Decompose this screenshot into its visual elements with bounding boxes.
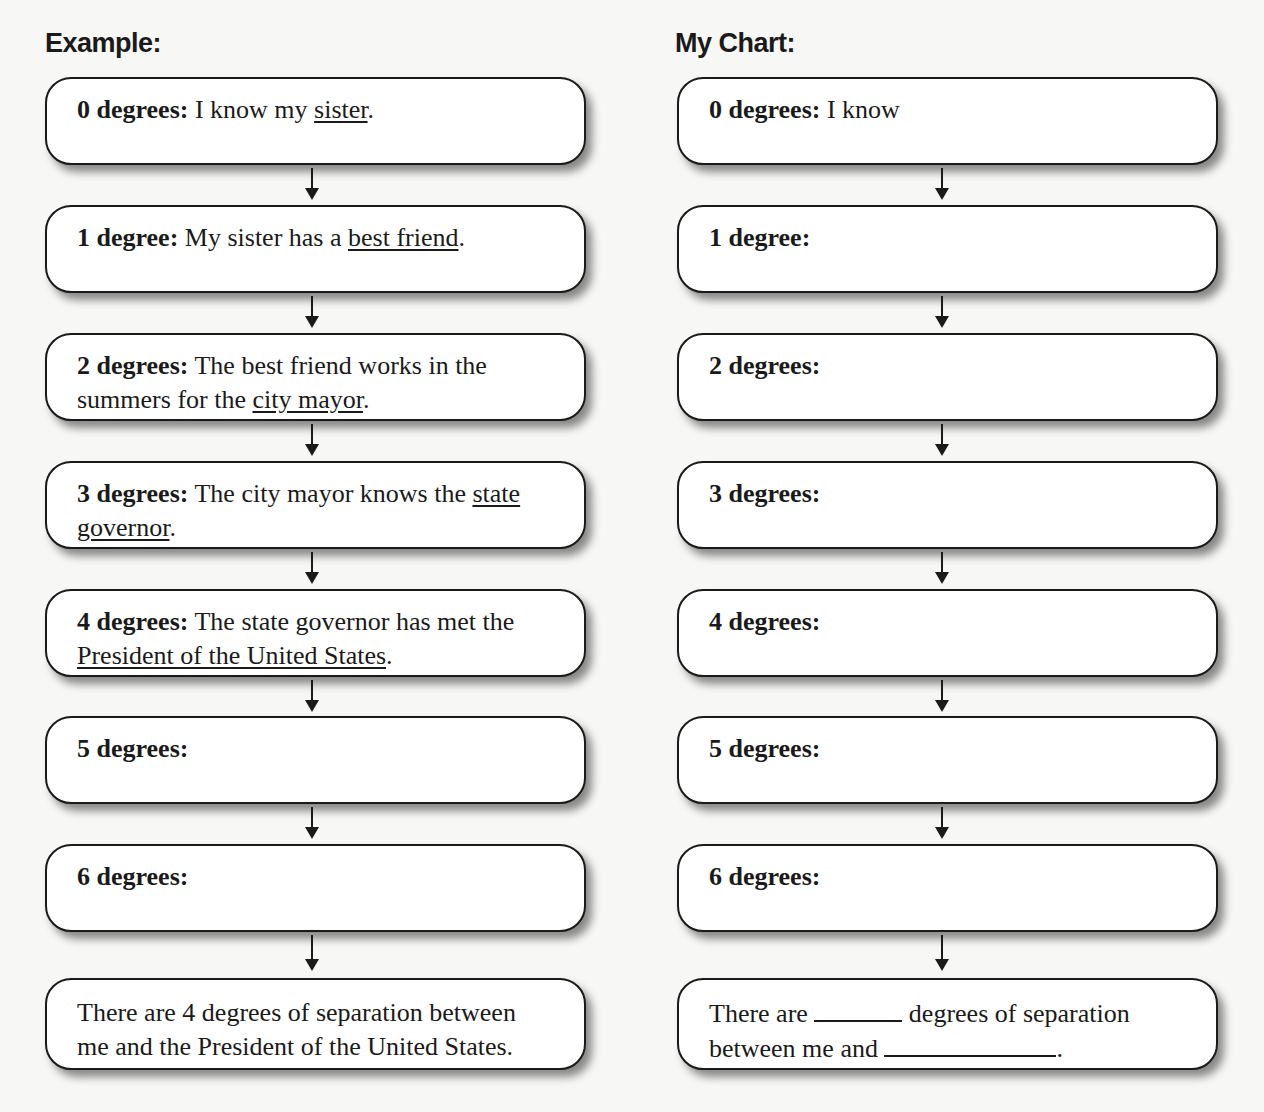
step-text: The state governor has met the — [188, 607, 514, 636]
step-text: The city mayor knows the — [188, 479, 472, 508]
step-underlined: President of the United States — [77, 641, 386, 670]
step-label: 5 degrees: — [77, 734, 188, 763]
arrow-down-icon — [311, 552, 313, 582]
step-punct: . — [363, 385, 370, 414]
conclusion-text: There are — [709, 999, 814, 1028]
step-label: 0 degrees: — [709, 95, 820, 124]
step-label: 1 degree: — [709, 223, 810, 252]
step-label: 0 degrees: — [77, 95, 188, 124]
example-step-2: 2 degrees: The best friend works in the … — [45, 333, 586, 421]
arrow-down-icon — [941, 935, 943, 969]
step-label: 3 degrees: — [709, 479, 820, 508]
arrow-down-icon — [311, 935, 313, 969]
step-punct: . — [368, 95, 375, 124]
step-punct: . — [458, 223, 465, 252]
step-label: 3 degrees: — [77, 479, 188, 508]
step-text: I know my — [188, 95, 314, 124]
step-label: 6 degrees: — [77, 862, 188, 891]
my-step-3[interactable]: 3 degrees: — [677, 461, 1218, 549]
step-text: My sister has a — [178, 223, 348, 252]
step-label: 2 degrees: — [709, 351, 820, 380]
my-step-4[interactable]: 4 degrees: — [677, 589, 1218, 677]
arrow-down-icon — [941, 807, 943, 837]
step-label: 1 degree: — [77, 223, 178, 252]
example-heading: Example: — [45, 28, 161, 59]
my-step-6[interactable]: 6 degrees: — [677, 844, 1218, 932]
conclusion-text: There are 4 degrees of separation betwee… — [77, 998, 516, 1061]
arrow-down-icon — [941, 168, 943, 198]
arrow-down-icon — [311, 296, 313, 326]
example-step-1: 1 degree: My sister has a best friend. — [45, 205, 586, 293]
example-step-3: 3 degrees: The city mayor knows the stat… — [45, 461, 586, 549]
step-label: 2 degrees: — [77, 351, 188, 380]
person-blank[interactable] — [884, 1031, 1056, 1057]
arrow-down-icon — [311, 807, 313, 837]
arrow-down-icon — [941, 680, 943, 710]
example-step-4: 4 degrees: The state governor has met th… — [45, 589, 586, 677]
example-step-6: 6 degrees: — [45, 844, 586, 932]
step-label: 6 degrees: — [709, 862, 820, 891]
my-step-0[interactable]: 0 degrees: I know — [677, 77, 1218, 165]
step-underlined: best friend — [348, 223, 458, 252]
arrow-down-icon — [311, 680, 313, 710]
step-label: 4 degrees: — [709, 607, 820, 636]
step-punct: . — [386, 641, 393, 670]
step-label: 4 degrees: — [77, 607, 188, 636]
example-step-0: 0 degrees: I know my sister. — [45, 77, 586, 165]
step-label: 5 degrees: — [709, 734, 820, 763]
my-step-5[interactable]: 5 degrees: — [677, 716, 1218, 804]
step-underlined: sister — [314, 95, 367, 124]
arrow-down-icon — [941, 296, 943, 326]
arrow-down-icon — [941, 552, 943, 582]
arrow-down-icon — [311, 424, 313, 454]
conclusion-punct: . — [1056, 1034, 1063, 1063]
my-step-2[interactable]: 2 degrees: — [677, 333, 1218, 421]
degrees-blank[interactable] — [814, 996, 902, 1022]
example-step-5: 5 degrees: — [45, 716, 586, 804]
step-underlined: city mayor — [252, 385, 362, 414]
example-conclusion: There are 4 degrees of separation betwee… — [45, 978, 586, 1070]
step-punct: . — [169, 513, 176, 542]
arrow-down-icon — [941, 424, 943, 454]
my-conclusion: There are degrees of separation between … — [677, 978, 1218, 1070]
arrow-down-icon — [311, 168, 313, 198]
step-text: I know — [820, 95, 899, 124]
my-chart-heading: My Chart: — [675, 28, 795, 59]
my-step-1[interactable]: 1 degree: — [677, 205, 1218, 293]
